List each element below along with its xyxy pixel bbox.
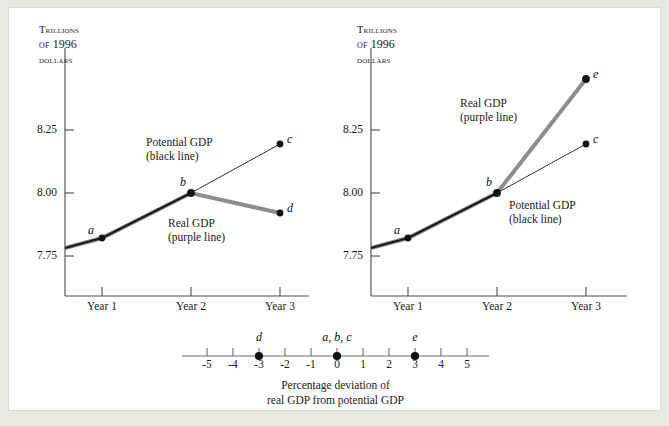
potential-gdp-line-right-segment-bc xyxy=(497,144,586,193)
data-point-e-right xyxy=(582,75,590,83)
potential-gdp-annotation-left-line2: (black line) xyxy=(146,149,213,163)
data-point-d-left xyxy=(277,210,284,217)
plot-area-left xyxy=(9,8,335,318)
real-gdp-annotation-right-line2: (purple line) xyxy=(460,110,517,124)
data-point-a-left xyxy=(99,235,106,242)
data-point-c-left xyxy=(277,141,284,148)
data-point-c-right xyxy=(583,141,590,148)
y-tick-label-800-right: 8.00 xyxy=(329,186,363,198)
point-label-c-right: c xyxy=(593,132,598,147)
number-line-panel: -5 -4 -3 -2 -1 0 1 2 3 4 5 d a, b, c e P… xyxy=(9,320,662,412)
y-tick-label-775-left: 7.75 xyxy=(23,249,57,261)
data-point-b-left xyxy=(187,189,195,197)
y-tick-label-800-left: 8.00 xyxy=(23,186,57,198)
x-tick-label-year2-left: Year 2 xyxy=(156,300,226,312)
chart-panel-right: Trillions of 1996 dollars 8.25 8.00 xyxy=(327,8,653,318)
y-tick-label-775-right: 7.75 xyxy=(329,249,363,261)
x-tick-label-year1-right: Year 1 xyxy=(373,300,443,312)
number-line-point-label-abc: a, b, c xyxy=(309,330,365,345)
point-label-c-left: c xyxy=(287,132,292,147)
number-line-label-5: 5 xyxy=(447,358,487,370)
plot-area-right xyxy=(327,8,653,318)
number-line-caption-line1: Percentage deviation of xyxy=(9,378,662,393)
number-line-caption-line2: real GDP from potential GDP xyxy=(9,393,662,408)
potential-gdp-annotation-right: Potential GDP (black line) xyxy=(509,198,576,226)
number-line-caption: Percentage deviation of real GDP from po… xyxy=(9,378,662,407)
x-tick-label-year3-right: Year 3 xyxy=(551,300,621,312)
x-tick-label-year3-left: Year 3 xyxy=(245,300,315,312)
potential-gdp-annotation-right-line2: (black line) xyxy=(509,212,576,226)
real-gdp-annotation-left-line2: (purple line) xyxy=(168,230,225,244)
potential-gdp-annotation-left: Potential GDP (black line) xyxy=(146,135,213,163)
point-label-b-right: b xyxy=(486,175,492,190)
figure-container: Trillions of 1996 dollars xyxy=(8,7,661,411)
point-label-a-left: a xyxy=(88,223,94,238)
number-line-point-label-d: d xyxy=(239,330,279,345)
x-tick-label-year1-left: Year 1 xyxy=(67,300,137,312)
potential-gdp-annotation-left-line1: Potential GDP xyxy=(146,135,213,149)
potential-gdp-annotation-right-line1: Potential GDP xyxy=(509,198,576,212)
x-tick-label-year2-right: Year 2 xyxy=(462,300,532,312)
data-point-b-right xyxy=(493,189,501,197)
real-gdp-annotation-left: Real GDP (purple line) xyxy=(168,216,225,244)
real-gdp-annotation-left-line1: Real GDP xyxy=(168,216,225,230)
point-label-b-left: b xyxy=(180,175,186,190)
real-gdp-annotation-right-line1: Real GDP xyxy=(460,96,517,110)
real-gdp-annotation-right: Real GDP (purple line) xyxy=(460,96,517,124)
point-label-a-right: a xyxy=(394,223,400,238)
data-point-a-right xyxy=(405,235,412,242)
chart-panel-left: Trillions of 1996 dollars xyxy=(9,8,335,318)
y-tick-label-825-right: 8.25 xyxy=(329,123,363,135)
point-label-d-left: d xyxy=(287,201,293,216)
y-tick-label-825-left: 8.25 xyxy=(23,123,57,135)
number-line-axis xyxy=(9,320,662,380)
point-label-e-right: e xyxy=(593,67,598,82)
number-line-point-label-e: e xyxy=(395,330,435,345)
